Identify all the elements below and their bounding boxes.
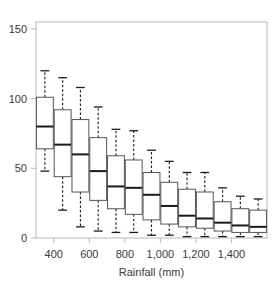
y-tick-label: 150	[9, 23, 27, 35]
iqr-box	[214, 202, 231, 231]
x-axis-title: Rainfall (mm)	[119, 266, 184, 278]
x-tick-label: 1,400	[218, 248, 246, 260]
iqr-box	[36, 97, 53, 149]
plot-canvas: 0501001504006008001,0001,2001,400Rainfal…	[0, 0, 279, 294]
x-tick-label: 600	[80, 248, 98, 260]
x-tick-label: 1,000	[147, 248, 175, 260]
x-tick-label: 400	[45, 248, 63, 260]
iqr-box	[179, 189, 196, 227]
y-tick-label: 0	[21, 232, 27, 244]
iqr-box	[196, 192, 213, 228]
iqr-box	[250, 210, 267, 232]
boxplot-figure: 0501001504006008001,0001,2001,400Rainfal…	[0, 0, 279, 294]
iqr-box	[232, 209, 249, 233]
y-tick-label: 100	[9, 93, 27, 105]
iqr-box	[72, 120, 89, 192]
iqr-box	[54, 110, 71, 177]
iqr-box	[90, 138, 107, 201]
iqr-box	[161, 182, 178, 224]
iqr-box	[143, 173, 160, 220]
x-tick-label: 800	[116, 248, 134, 260]
iqr-box	[108, 156, 125, 209]
y-tick-label: 50	[15, 162, 27, 174]
x-tick-label: 1,200	[182, 248, 210, 260]
